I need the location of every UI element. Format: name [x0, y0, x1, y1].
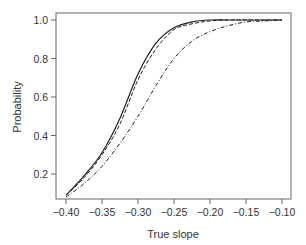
y-tick-label: 0.2 [33, 168, 48, 180]
x-tick-label: −0.20 [197, 206, 224, 218]
x-tick-label: −0.25 [161, 206, 188, 218]
x-axis: −0.40−0.35−0.30−0.25−0.20−0.15−0.10 [53, 199, 296, 218]
series-line-dashed [66, 20, 282, 195]
x-tick-label: −0.15 [233, 206, 260, 218]
y-tick-label: 0.4 [33, 130, 48, 142]
y-axis-label: Probability [11, 81, 23, 133]
plot-frame [56, 13, 291, 199]
probability-line-chart: −0.40−0.35−0.30−0.25−0.20−0.15−0.10 0.20… [0, 0, 306, 245]
x-tick-label: −0.35 [89, 206, 116, 218]
x-tick-label: −0.10 [269, 206, 296, 218]
y-tick-label: 0.8 [33, 53, 48, 65]
plot-lines [66, 20, 282, 197]
x-axis-label: True slope [147, 228, 199, 240]
series-line-solid [66, 20, 282, 195]
y-axis: 0.20.40.60.81.0 [33, 14, 56, 180]
x-tick-label: −0.40 [53, 206, 80, 218]
y-tick-label: 1.0 [33, 14, 48, 26]
series-line-dash-dot [66, 20, 282, 197]
y-tick-label: 0.6 [33, 91, 48, 103]
x-tick-label: −0.30 [125, 206, 152, 218]
